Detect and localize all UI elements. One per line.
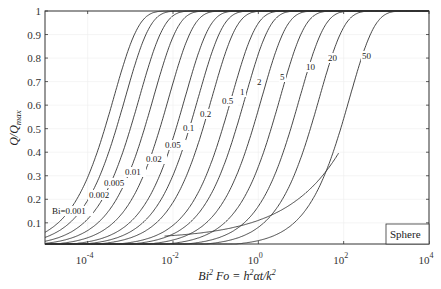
curve-label: 0.002 [89,190,109,200]
curve-bi-0.002 [45,11,429,237]
x-tick-label: 104 [419,251,434,266]
y-tick-label: 0.3 [27,170,41,182]
curve-labels: Bi=0.0010.0020.0050.010.020.050.10.20.51… [51,51,373,216]
x-axis-ticks: 10-410-2100102104 [76,11,434,266]
curve-bi-5 [45,11,429,244]
y-tick-label: 0.9 [27,29,41,41]
x-tick-label: 102 [333,251,348,266]
curve-label: 10 [306,62,316,72]
y-tick-label: 0.7 [27,76,41,88]
x-axis-label: Bi2 Fo = h2αt/k2 [198,268,275,283]
curve-label: 5 [280,72,285,82]
curve-label: 0.2 [200,109,211,119]
y-axis-label: Q/Qmax [7,110,23,146]
curve-label: 0.05 [165,140,181,150]
y-tick-label: 0.6 [27,99,41,111]
curves [45,11,429,244]
curve-label: 0.005 [104,178,125,188]
y-tick-label: 0.8 [27,52,41,64]
y-tick-label: 0.1 [27,217,41,229]
legend-text: Sphere [390,228,421,240]
curve-label: 50 [362,51,372,61]
x-tick-label: 10-2 [161,251,179,266]
curve-label: 2 [257,77,262,87]
chart: 0.10.20.30.40.50.60.70.80.91 10-410-2100… [0,0,441,289]
legend: Sphere [386,224,429,244]
curve-label: Bi=0.001 [52,206,86,216]
curve-label: 20 [328,53,338,63]
curve-label: 0.02 [146,154,162,164]
y-tick-label: 0.2 [27,193,41,205]
y-tick-label: 1 [36,5,42,17]
x-tick-label: 10-4 [76,251,94,266]
y-tick-label: 0.5 [27,123,41,135]
curve-label: 0.01 [125,167,141,177]
curve-label: 1 [240,87,245,97]
curve-label: 0.5 [222,96,234,106]
x-tick-label: 100 [248,251,263,266]
y-tick-label: 0.4 [27,146,41,158]
curve-label: 0.1 [183,123,194,133]
